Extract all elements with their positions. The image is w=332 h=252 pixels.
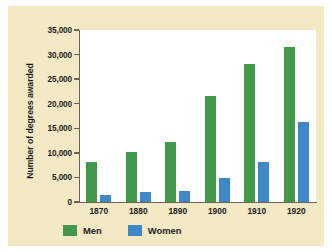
legend-swatch-men [63, 225, 77, 236]
bar-women-1920 [298, 122, 309, 202]
y-axis-tick-label: 0 [68, 198, 72, 207]
bar-women-1900 [219, 178, 230, 202]
x-axis-line [79, 202, 317, 203]
y-axis-line [79, 30, 80, 203]
y-axis-tick-label: 20,000 [48, 99, 72, 108]
legend-item-women: Women [128, 225, 182, 236]
bar-men-1890 [165, 142, 176, 202]
bar-men-1880 [126, 152, 137, 202]
bar-women-1880 [140, 192, 151, 202]
bar-men-1910 [244, 64, 255, 202]
x-axis-tick-label: 1910 [237, 206, 277, 216]
bar-men-1920 [284, 47, 295, 202]
y-axis-tick [74, 54, 79, 55]
bar-women-1890 [179, 191, 190, 202]
bar-women-1910 [258, 162, 269, 202]
y-axis-tick-label: 35,000 [48, 26, 72, 35]
x-axis-tick-label: 1890 [158, 206, 198, 216]
y-axis-tick-label: 30,000 [48, 50, 72, 59]
legend-label-women: Women [148, 225, 182, 236]
y-axis-tick [74, 128, 79, 129]
legend-swatch-women [128, 225, 142, 236]
y-axis-tick [74, 29, 79, 30]
chart-legend: MenWomen [63, 225, 181, 236]
y-axis-tick [74, 78, 79, 79]
legend-item-men: Men [63, 225, 102, 236]
y-axis-tick-label: 15,000 [48, 124, 72, 133]
bar-men-1870 [86, 162, 97, 202]
plot-area [79, 30, 316, 202]
x-axis-tick-label: 1870 [79, 206, 119, 216]
x-axis-tick-label: 1880 [118, 206, 158, 216]
bar-women-1870 [100, 195, 111, 202]
y-axis-tick [74, 152, 79, 153]
y-axis-tick-label: 10,000 [48, 148, 72, 157]
y-axis-tick-label: 25,000 [48, 75, 72, 84]
chart-mat-background: Number of degrees awarded 05,00010,00015… [8, 6, 324, 246]
x-axis-tick-label: 1920 [276, 206, 316, 216]
y-axis-tick [74, 103, 79, 104]
legend-label-men: Men [83, 225, 102, 236]
y-axis-tick [74, 177, 79, 178]
y-axis-tick-labels: 05,00010,00015,00020,00025,00030,00035,0… [30, 6, 72, 252]
y-axis-tick [74, 201, 79, 202]
bar-men-1900 [205, 96, 216, 202]
y-axis-tick-label: 5,000 [52, 173, 72, 182]
x-axis-tick-label: 1900 [197, 206, 237, 216]
chart-figure: Number of degrees awarded 05,00010,00015… [0, 0, 332, 252]
